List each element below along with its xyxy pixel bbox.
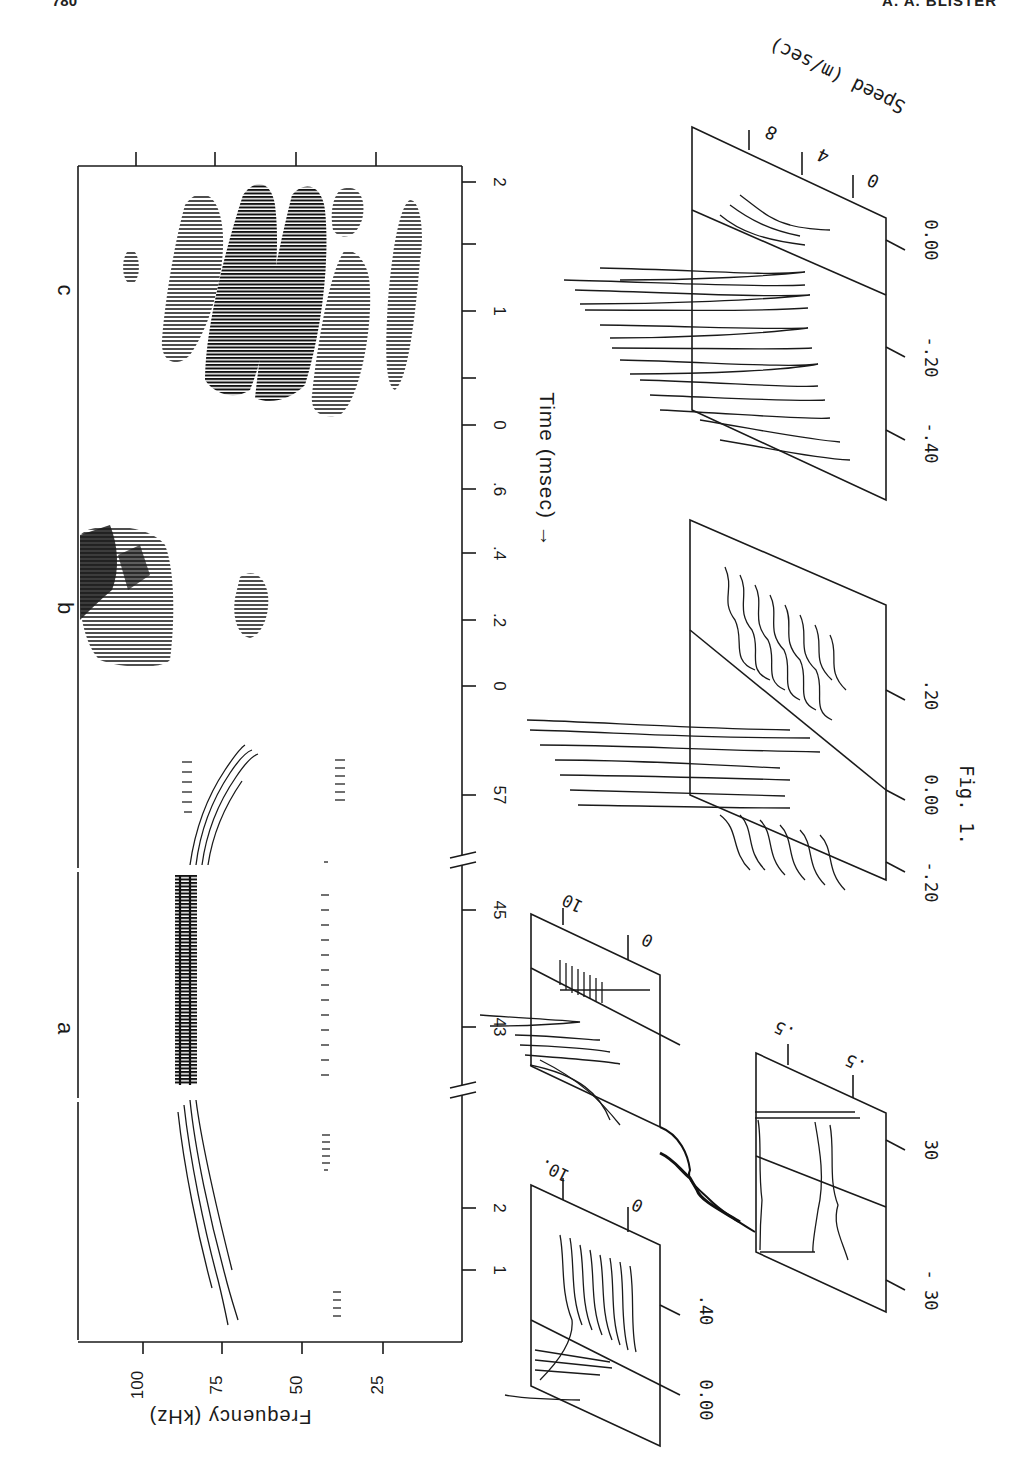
frequency-axis: 100 75 50 25 Frequency (kHz) <box>128 1342 387 1428</box>
waterfall-large-c: 0.00 -.20 -.40 8 4 0 Speed (m/sec) <box>564 34 941 500</box>
frequency-axis-label: Frequency (kHz) <box>149 1406 312 1428</box>
panel-label-c: c <box>53 285 78 296</box>
time-tick-0-b: 0 <box>490 681 509 690</box>
time-tick-0-c: 0 <box>490 420 509 429</box>
freq-tick-25: 25 <box>368 1376 387 1395</box>
large-c-speed-tick-4: 4 <box>814 144 833 168</box>
time-tick-2: 2 <box>490 1203 509 1212</box>
waterfall-large-b: .20 0.00 -.20 <box>527 520 941 902</box>
time-tick-45: 45 <box>490 901 509 920</box>
small-c-time-tick-30: 30 <box>921 1140 941 1160</box>
figure-1: 100 75 50 25 Frequency (kHz) 1 2 43 45 5… <box>0 0 1029 1466</box>
large-c-speed-tick-0: 0 <box>864 169 883 193</box>
time-axis: 1 2 43 45 57 0 .2 .4 .6 0 1 2 Time (msec… <box>462 177 559 1274</box>
time-tick-57: 57 <box>490 786 509 805</box>
time-tick-1: 1 <box>490 1265 509 1274</box>
time-tick-1-c: 1 <box>490 306 509 315</box>
large-b-time-tick-neg20: -.20 <box>921 862 941 903</box>
spectrogram-panel-a <box>175 745 345 1325</box>
panel-label-a: a <box>53 1022 78 1035</box>
freq-tick-100: 100 <box>128 1371 147 1399</box>
spectrogram-panel-c <box>123 184 422 416</box>
large-c-time-tick-neg40: -.40 <box>921 423 941 464</box>
waveform-envelope <box>660 1127 755 1232</box>
freq-tick-50: 50 <box>287 1376 306 1395</box>
large-c-time-tick-neg20: -.20 <box>921 337 941 378</box>
waterfall-small-a1: 10. 0 .40 0.00 <box>505 1155 716 1446</box>
small-c-speed-tick-b: .5 <box>842 1050 869 1077</box>
spectrogram-panel-b <box>80 525 268 667</box>
small-a1-time-tick-0: 0.00 <box>696 1380 716 1421</box>
small-a1-time-tick-40: .40 <box>696 1295 716 1326</box>
time-tick-0.4: .4 <box>490 546 509 560</box>
freq-tick-75: 75 <box>207 1376 226 1395</box>
small-a2-speed-tick-0: 0 <box>638 929 656 951</box>
panel-labels: a b c <box>53 285 78 1035</box>
time-tick-0.2: .2 <box>490 613 509 627</box>
waterfall-small-c: .5 .5 30 - 30 <box>755 1017 941 1312</box>
small-c-speed-tick-a: .5 <box>771 1017 798 1044</box>
figure-caption: Fig. 1. <box>956 765 978 845</box>
large-b-time-tick-20: .20 <box>921 680 941 711</box>
speed-axis-label: Speed (m/sec) <box>765 34 908 119</box>
time-tick-0.6: .6 <box>490 482 509 496</box>
waterfall-small-a2: 10 0 <box>480 890 680 1127</box>
time-tick-43: 43 <box>490 1018 509 1037</box>
large-c-time-tick-0: 0.00 <box>921 220 941 261</box>
time-tick-2-c: 2 <box>490 177 509 186</box>
small-a1-speed-tick-0: 0 <box>628 1194 646 1216</box>
large-b-time-tick-0: 0.00 <box>921 775 941 816</box>
large-c-speed-tick-8: 8 <box>762 121 781 145</box>
small-a1-speed-tick-10: 10. <box>536 1155 572 1186</box>
small-c-time-tick-neg30: - 30 <box>921 1270 941 1311</box>
time-axis-label: Time (msec) → <box>536 392 559 548</box>
panel-label-b: b <box>53 602 78 614</box>
